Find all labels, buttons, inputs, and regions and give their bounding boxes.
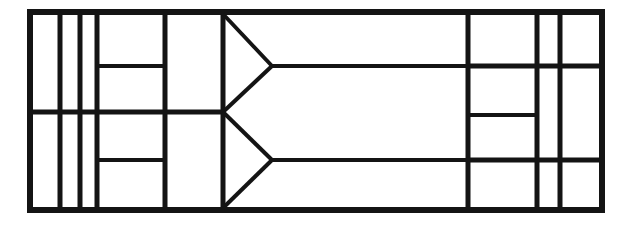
diagram-canvas xyxy=(0,0,629,227)
horizontal-lines-group xyxy=(30,66,602,160)
chevron-lower-upper-diagonal xyxy=(223,112,272,160)
chevron-upper-upper-diagonal xyxy=(223,14,272,66)
chevron-lower-lower-diagonal xyxy=(223,160,272,208)
line-diagram xyxy=(0,0,629,227)
chevron-group xyxy=(223,14,272,208)
chevron-upper-lower-diagonal xyxy=(223,66,272,112)
